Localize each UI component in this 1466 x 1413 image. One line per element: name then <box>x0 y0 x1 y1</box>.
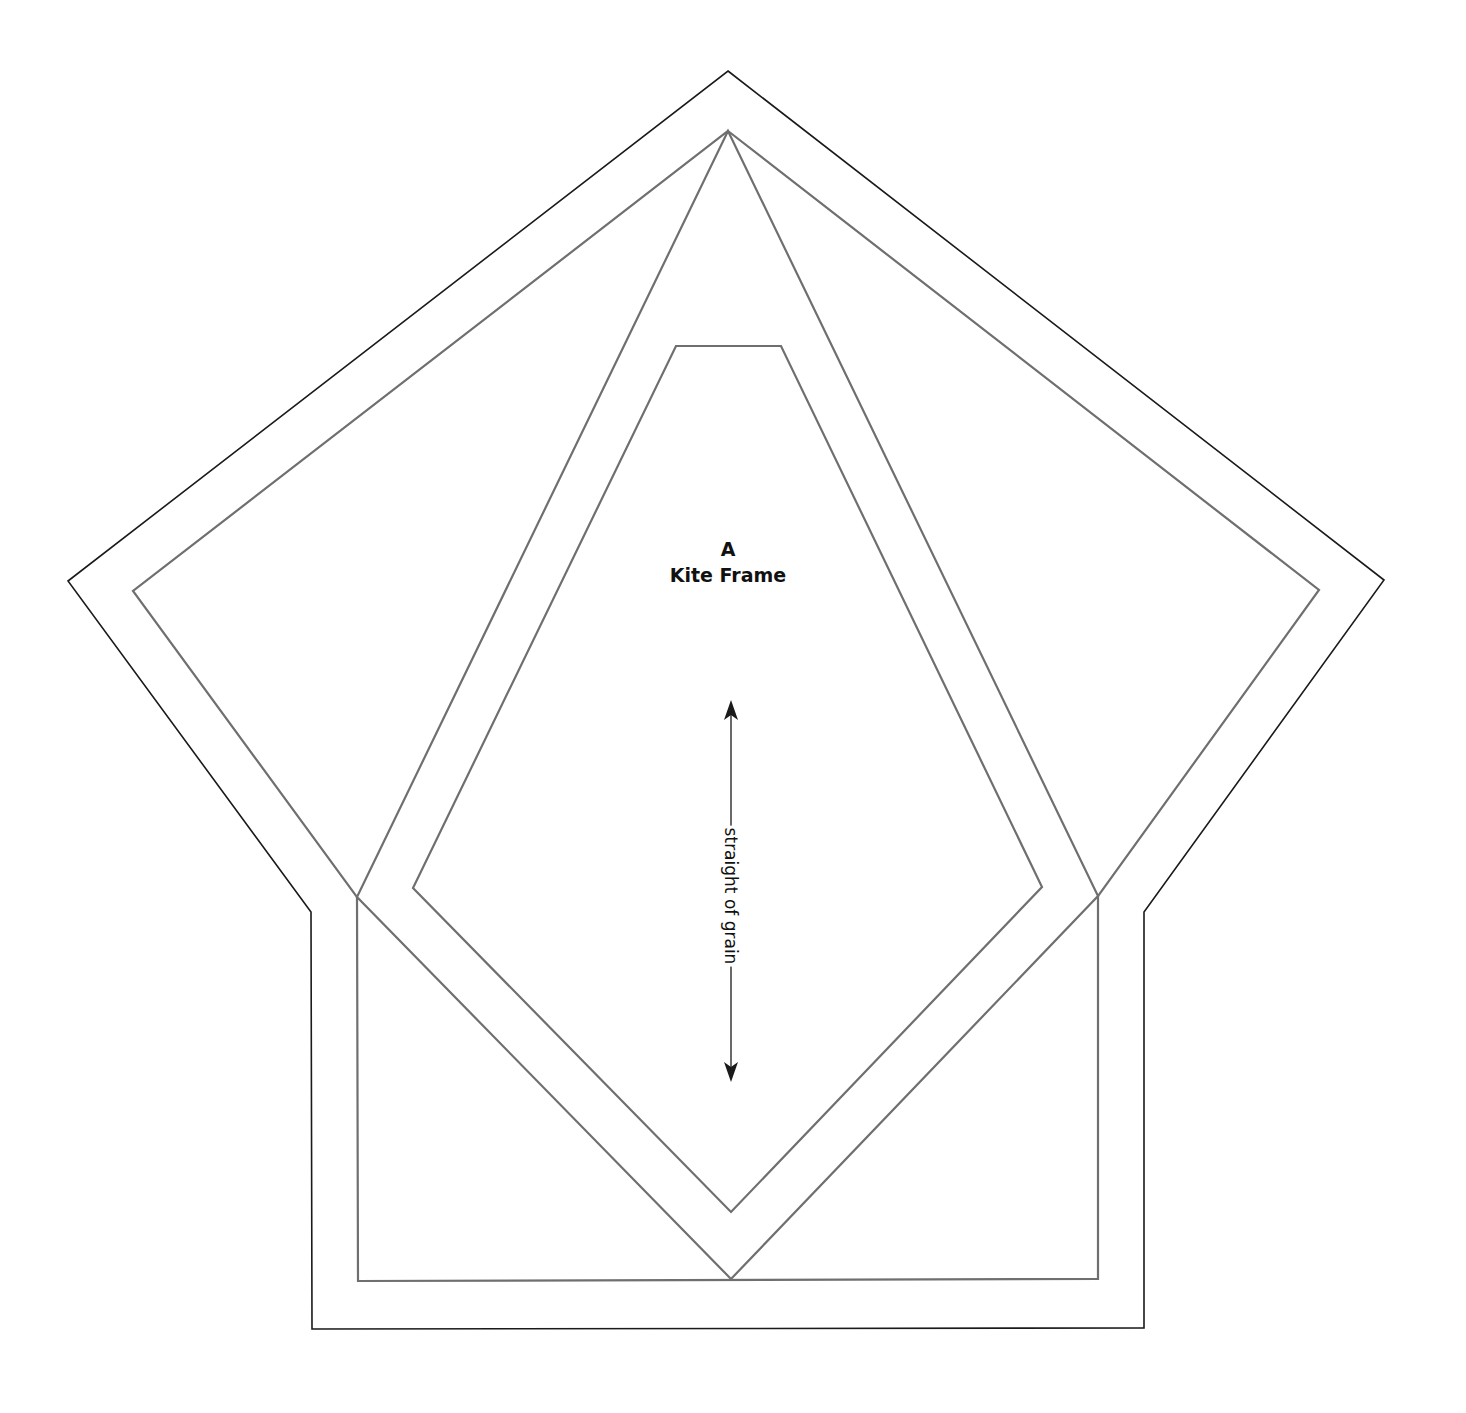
piece-letter: A <box>628 537 828 561</box>
kite-frame-pattern <box>0 0 1466 1413</box>
large-kite-shape <box>357 131 1098 1279</box>
grainline-label: straight of grain <box>721 826 741 967</box>
outer-cutting-outline <box>68 71 1384 1329</box>
inner-kite-shape <box>413 346 1042 1212</box>
piece-name: Kite Frame <box>628 563 828 587</box>
